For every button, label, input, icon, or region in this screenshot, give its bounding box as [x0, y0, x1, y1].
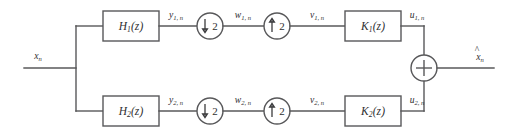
- synthesis-filter-k1-label: K1(z): [361, 20, 385, 32]
- output-hat-accent: ^: [475, 44, 480, 55]
- analysis-filter-h2-label: H2(z): [119, 105, 144, 117]
- lower-upsampled-signal-label: v2, n: [310, 94, 324, 105]
- lower-synthesis-output-label: u2, n: [410, 94, 425, 105]
- lower-downsampled-signal-label: w2, n: [235, 94, 251, 105]
- upper-analysis-output-label: y1, n: [169, 9, 183, 20]
- upper-upsampler-circle: [264, 13, 290, 39]
- lower-analysis-output-label: y2, n: [169, 94, 183, 105]
- analysis-filter-h1-label: H1(z): [119, 20, 144, 32]
- upper-downsampler-factor: 2: [212, 20, 218, 32]
- upper-downsampler-circle: [197, 13, 223, 39]
- upper-downsampled-signal-label: w1, n: [235, 9, 251, 20]
- lower-upsampler-circle: [264, 98, 290, 124]
- lower-downsampler-circle: [197, 98, 223, 124]
- synthesis-filter-k2-label: K2(z): [361, 105, 385, 117]
- lower-upsampler-factor: 2: [279, 105, 285, 117]
- block-diagram-figure: xn H1(z) y1, n 2 w1, n 2 v1, n K1(z) u1,…: [0, 0, 512, 137]
- upper-upsampler-factor: 2: [279, 20, 285, 32]
- upper-synthesis-output-label: u1, n: [410, 9, 425, 20]
- input-signal-label: xn: [34, 50, 42, 61]
- diagram-canvas: [0, 0, 512, 137]
- upper-upsampled-signal-label: v1, n: [310, 9, 324, 20]
- lower-downsampler-factor: 2: [212, 105, 218, 117]
